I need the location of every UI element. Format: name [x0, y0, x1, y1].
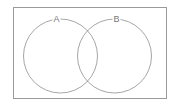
venn-diagram: A B [0, 0, 175, 104]
set-a-circle [24, 19, 98, 93]
venn-svg: A B [0, 0, 175, 104]
universe-rectangle [14, 8, 167, 99]
set-b-label: B [113, 14, 119, 24]
set-a-label: A [53, 14, 59, 24]
set-b-circle [78, 19, 152, 93]
